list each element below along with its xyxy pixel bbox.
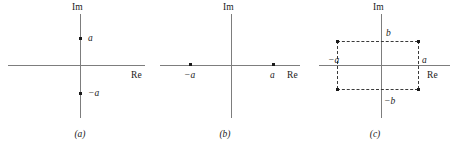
point-label-c-neg-b: −b <box>384 96 395 106</box>
point-label-c-neg-a: −a <box>328 55 339 65</box>
point-label-c-b: b <box>386 28 391 38</box>
real-axis-c <box>319 65 450 66</box>
point-marker-b-right <box>272 63 275 66</box>
point-label-c-a: a <box>422 55 427 65</box>
imaginary-axis-c <box>381 14 382 118</box>
corner-marker-bottom-left <box>336 88 339 91</box>
real-axis-b <box>160 65 300 66</box>
real-axis-a <box>8 65 145 66</box>
real-axis-label-c: Re <box>427 70 438 80</box>
corner-marker-top-right <box>417 40 420 43</box>
imaginary-axis-a <box>80 14 81 118</box>
point-label-b-left: −a <box>184 70 195 80</box>
imaginary-axis-label-a: Im <box>72 2 83 12</box>
point-marker-a-lower <box>79 92 82 95</box>
real-axis-label-b: Re <box>287 70 298 80</box>
point-label-a-upper: a <box>88 33 93 43</box>
dashed-rect-right-edge <box>418 41 419 89</box>
panel-a: Im Re a −a (a) <box>0 0 154 151</box>
imaginary-axis-label-b: Im <box>223 2 234 12</box>
point-label-a-lower: −a <box>88 88 99 98</box>
imaginary-axis-b <box>231 14 232 118</box>
imaginary-axis-label-c: Im <box>373 2 384 12</box>
point-marker-b-left <box>189 63 192 66</box>
dashed-rect-top-edge <box>337 41 418 42</box>
dashed-rect-left-edge <box>337 41 338 89</box>
real-axis-label-a: Re <box>131 70 142 80</box>
corner-marker-bottom-right <box>417 88 420 91</box>
complex-plane-figure: Im Re a −a (a) Im Re −a a (b) Im Re <box>0 0 462 151</box>
panel-c: Im Re b −b −a a (c) <box>308 0 462 151</box>
caption-c: (c) <box>355 129 395 139</box>
panel-b: Im Re −a a (b) <box>154 0 308 151</box>
point-label-b-right: a <box>270 70 275 80</box>
caption-a: (a) <box>60 129 100 139</box>
dashed-rect-bottom-edge <box>337 89 418 90</box>
corner-marker-top-left <box>336 40 339 43</box>
point-marker-a-upper <box>79 37 82 40</box>
caption-b: (b) <box>205 129 245 139</box>
